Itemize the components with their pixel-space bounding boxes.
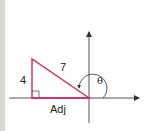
hypotenuse-label: 7 [60, 61, 66, 73]
adjacent-label: Adj [50, 103, 66, 115]
opposite-label: 4 [20, 74, 26, 86]
angle-label: θ [97, 75, 103, 86]
triangle-diagram: 4 7 Adj θ [0, 0, 151, 131]
right-angle-marker [32, 91, 39, 98]
